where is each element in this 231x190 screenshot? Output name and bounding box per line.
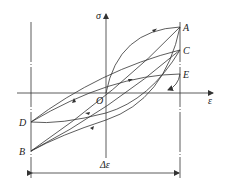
origin-label: O bbox=[96, 95, 103, 106]
curve-a-to-b bbox=[31, 27, 180, 151]
point-e-label: E bbox=[182, 69, 189, 80]
arrow-lower-1 bbox=[85, 112, 90, 115]
point-c-label: C bbox=[183, 45, 190, 56]
curve-d-lower bbox=[31, 50, 180, 123]
delta-epsilon-label: Δε bbox=[99, 159, 110, 170]
point-b-label: B bbox=[19, 146, 25, 157]
curve-e-return bbox=[168, 74, 180, 90]
sigma-label: σ bbox=[96, 10, 102, 21]
curve-b-to-a-inner bbox=[31, 27, 180, 151]
arrow-lower-2 bbox=[90, 126, 94, 130]
point-a-label: A bbox=[182, 22, 190, 33]
curve-c-to-d bbox=[31, 50, 180, 122]
arrow-d-e bbox=[128, 79, 133, 82]
curve-o-to-a bbox=[106, 27, 180, 93]
epsilon-label: ε bbox=[208, 95, 212, 106]
point-d-label: D bbox=[18, 117, 27, 128]
hysteresis-diagram: σ ε O A C E D B Δε bbox=[0, 0, 231, 190]
curve-b-to-c bbox=[31, 50, 180, 151]
